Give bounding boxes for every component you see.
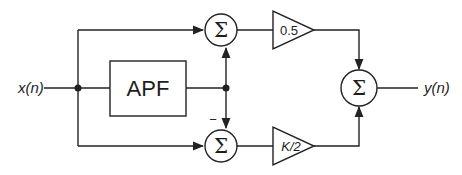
- apf-label: APF: [127, 76, 170, 101]
- gain-top-label: 0.5: [280, 23, 298, 38]
- minus-sign: −: [209, 112, 217, 127]
- sigma-icon: Σ: [214, 18, 228, 42]
- sum-output: Σ: [341, 70, 377, 106]
- bottom-gain-to-output-sum-wire: [314, 107, 359, 146]
- input-label: x(n): [17, 79, 44, 96]
- top-gain-to-output-sum-wire: [314, 30, 359, 69]
- apf-block: APF: [110, 61, 186, 116]
- sigma-icon: Σ: [352, 76, 366, 100]
- apf-block-diagram: x(n) APF Σ Σ − 0.5 K/2 Σ: [0, 0, 462, 175]
- output-label: y(n): [423, 79, 450, 96]
- gain-bottom: K/2: [273, 127, 314, 165]
- sum-bottom: Σ: [205, 130, 237, 162]
- gain-top: 0.5: [273, 11, 314, 49]
- gain-bottom-label: K/2: [281, 139, 301, 154]
- sigma-icon: Σ: [214, 134, 228, 158]
- sum-top: Σ: [205, 14, 237, 46]
